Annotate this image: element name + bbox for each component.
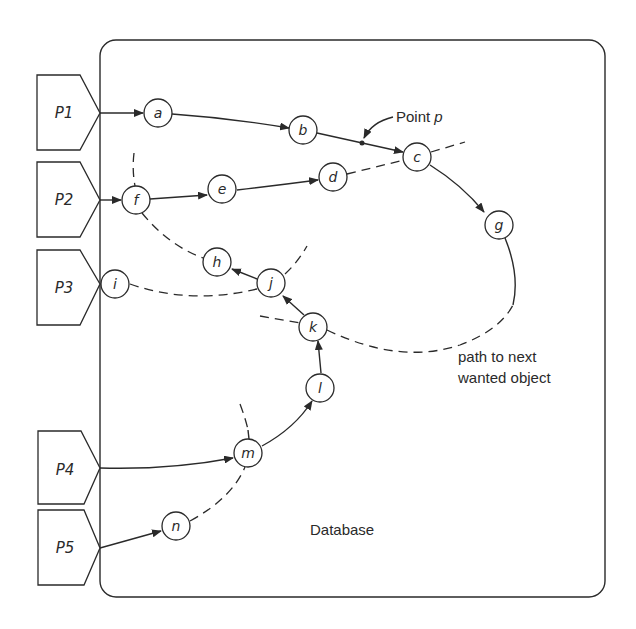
dashed-c-out (431, 142, 465, 152)
path-to-next-label-line1: path to next (458, 348, 537, 365)
svg-text:l: l (318, 380, 322, 396)
dashed-m-top (240, 404, 248, 430)
svg-text:c: c (413, 149, 421, 165)
svg-text:d: d (329, 169, 338, 185)
database-access-diagram: P1 P2 P3 P4 P5 Point p a b (0, 0, 636, 629)
svg-text:e: e (218, 181, 227, 197)
node-n: n (162, 512, 190, 540)
process-p2-label: P2 (55, 191, 74, 209)
node-j: j (257, 269, 285, 297)
edge-p5-n (100, 531, 161, 548)
edge-c-g (430, 165, 484, 212)
dashed-d-c (347, 160, 404, 174)
dashed-next-object (327, 305, 513, 352)
node-l: l (306, 374, 334, 402)
edge-e-d (237, 180, 318, 190)
process-p1: P1 (37, 75, 100, 150)
dashed-i-j (130, 284, 257, 296)
edge-p4-m (100, 458, 233, 468)
node-m: m (234, 439, 262, 467)
point-p-pointer (364, 117, 393, 138)
node-i: i (101, 270, 129, 298)
process-p2: P2 (37, 162, 100, 237)
svg-text:n: n (172, 518, 181, 534)
svg-text:i: i (113, 276, 117, 292)
dashed-f-h (142, 213, 203, 258)
edge-m-up (248, 430, 249, 439)
node-d: d (319, 163, 347, 191)
dashed-f-top (133, 153, 135, 186)
svg-text:h: h (213, 254, 222, 270)
svg-text:k: k (309, 319, 318, 335)
node-f: f (122, 186, 150, 214)
process-p1-label: P1 (55, 104, 74, 122)
edge-m-l (262, 401, 312, 446)
edge-g-loop (505, 238, 515, 305)
svg-text:m: m (241, 445, 255, 461)
node-e: e (208, 175, 236, 203)
process-p4-label: P4 (56, 461, 75, 479)
edge-f-e (150, 195, 207, 199)
process-p3: P3 (37, 250, 100, 325)
dashed-n-m (190, 467, 245, 521)
svg-text:g: g (495, 217, 504, 233)
dashed-j-up (285, 246, 307, 274)
edge-j-h (232, 269, 257, 279)
point-p-dot (360, 141, 365, 146)
edge-l-k (318, 341, 321, 373)
svg-text:b: b (299, 122, 308, 138)
edge-a-b (172, 114, 289, 128)
node-h: h (203, 248, 231, 276)
process-p3-label: P3 (55, 279, 74, 297)
node-k: k (299, 313, 327, 341)
svg-text:a: a (154, 105, 163, 121)
path-to-next-label-line2: wanted object (457, 369, 551, 386)
database-label: Database (310, 521, 374, 538)
process-p5-label: P5 (56, 539, 75, 557)
process-p4: P4 (38, 431, 100, 504)
node-g: g (485, 211, 513, 239)
process-p5: P5 (38, 510, 100, 585)
edge-k-j (283, 296, 304, 315)
dashed-k-left (260, 316, 300, 323)
point-p-label: Point p (396, 108, 443, 125)
node-a: a (144, 99, 172, 127)
node-b: b (289, 116, 317, 144)
node-c: c (403, 143, 431, 171)
